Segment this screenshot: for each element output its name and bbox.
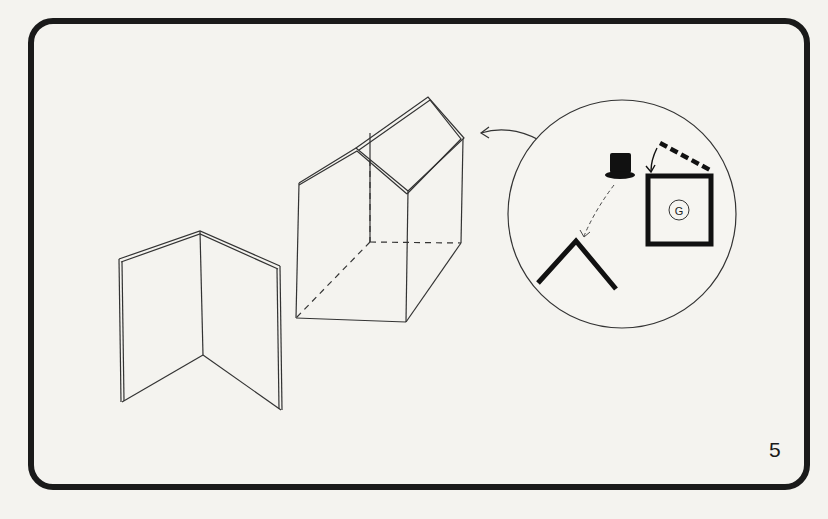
open-folded-panel bbox=[119, 231, 282, 410]
detail-inset-circle bbox=[508, 100, 736, 328]
callout-arrow bbox=[481, 127, 541, 141]
page-number: 5 bbox=[769, 438, 781, 462]
diagram-canvas: G bbox=[0, 0, 828, 519]
house-shaped-box bbox=[296, 97, 464, 322]
g-badge-label: G bbox=[675, 205, 684, 217]
